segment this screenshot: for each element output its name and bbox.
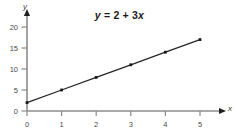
axes-group xyxy=(24,9,226,114)
data-point-marker xyxy=(26,101,29,104)
x-tick-label: 5 xyxy=(192,120,208,129)
x-tick-label: 0 xyxy=(19,120,35,129)
data-point-marker xyxy=(164,51,167,54)
x-tick-label: 2 xyxy=(88,120,104,129)
y-axis-label: y xyxy=(23,2,27,11)
data-point-marker xyxy=(60,89,63,92)
y-tick-label: 20 xyxy=(0,23,18,32)
data-point-marker xyxy=(129,63,132,66)
x-axis-arrowhead xyxy=(219,108,226,114)
y-tick-label: 15 xyxy=(0,44,18,53)
data-point-marker xyxy=(199,38,202,41)
y-tick-label: 0 xyxy=(0,107,18,116)
x-tick-label: 4 xyxy=(157,120,173,129)
plot-area xyxy=(0,0,239,136)
x-axis-label: x xyxy=(228,104,232,113)
data-line-series xyxy=(27,40,200,103)
y-tick-label: 5 xyxy=(0,86,18,95)
x-tick-label: 3 xyxy=(123,120,139,129)
y-axis-tick-marks xyxy=(22,27,28,111)
x-tick-label: 1 xyxy=(54,120,70,129)
y-tick-label: 10 xyxy=(0,65,18,74)
data-point-marker xyxy=(95,76,98,79)
chart-container: y = 2 + 3x xyxy=(0,0,239,136)
